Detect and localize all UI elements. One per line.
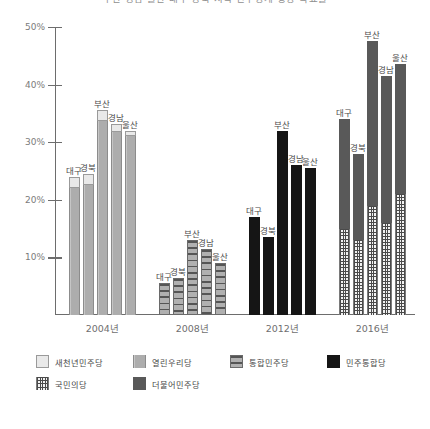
bar-segment [159, 283, 170, 315]
x-axis-label: 2012년 [266, 321, 299, 335]
x-axis-label: 2016년 [356, 321, 389, 335]
bar-segment [83, 174, 94, 185]
chart-legend: 새천년민주당열린우리당통합민주당민주통합당국민의당더불어민주당 [36, 355, 426, 399]
legend-item[interactable]: 국민의당 [36, 377, 133, 390]
legend-swatch-icon [327, 355, 340, 368]
chart-container: 부산 경남 울산 대구 경북 지역 민주당계 정당 득표율 10%20%30%4… [0, 0, 430, 429]
bar-segment [111, 124, 122, 132]
bar-value-label: 부산 [364, 28, 380, 40]
y-tick-label: 20% [25, 195, 45, 205]
bar[interactable]: 대구 [159, 283, 170, 315]
bar[interactable]: 울산 [395, 64, 406, 315]
bar-value-label: 경북 [260, 224, 276, 236]
x-axis-label: 2004년 [86, 321, 119, 335]
bar-segment [249, 217, 260, 315]
bar[interactable]: 울산 [215, 263, 226, 315]
bar[interactable]: 경북 [263, 237, 274, 315]
legend-swatch-icon [133, 355, 146, 368]
bar-segment [125, 136, 136, 315]
bar[interactable]: 경남 [111, 124, 122, 315]
y-tick-label: 30% [25, 137, 45, 147]
plot-area: 10%20%30%40%50% 대구경북부산경남울산대구경북부산경남울산대구경북… [55, 27, 415, 315]
y-tick-mark [48, 257, 55, 258]
legend-row: 국민의당더불어민주당 [36, 377, 426, 390]
bar[interactable]: 대구 [249, 217, 260, 315]
bar-segment [69, 177, 80, 189]
bar-group: 대구경북부산경남울산 [249, 27, 319, 315]
legend-label: 더불어민주당 [152, 378, 200, 390]
bar-segment [201, 249, 212, 315]
legend-swatch-icon [133, 377, 146, 390]
bar-value-label: 대구 [246, 204, 262, 216]
bar-value-label: 경남 [198, 236, 214, 248]
bar-segment [353, 240, 364, 315]
bar-segment [277, 131, 288, 315]
y-axis-line [55, 27, 56, 315]
bar[interactable]: 경남 [381, 76, 392, 315]
legend-item[interactable]: 열린우리당 [133, 355, 230, 368]
bar-segment [69, 188, 80, 315]
legend-item[interactable]: 민주통합당 [327, 355, 424, 368]
bar-segment [367, 41, 378, 205]
bar-segment [97, 121, 108, 315]
legend-item[interactable]: 더불어민주당 [133, 377, 230, 390]
bar-group: 대구경북부산경남울산 [339, 27, 409, 315]
bar-value-label: 경북 [80, 161, 96, 173]
bar-segment [395, 64, 406, 194]
bar[interactable]: 경남 [291, 165, 302, 315]
y-tick-label: 40% [25, 80, 45, 90]
bar-segment [291, 165, 302, 315]
bar-value-label: 울산 [392, 51, 408, 63]
bar[interactable]: 경북 [173, 278, 184, 315]
bar-segment [395, 194, 406, 315]
legend-row: 새천년민주당열린우리당통합민주당민주통합당 [36, 355, 426, 368]
legend-item[interactable]: 통합민주당 [230, 355, 327, 368]
bar[interactable]: 부산 [367, 41, 378, 315]
bar-segment [353, 154, 364, 240]
bar[interactable]: 부산 [277, 131, 288, 315]
legend-label: 새천년민주당 [55, 356, 103, 368]
y-tick-inner [55, 257, 62, 258]
bar-value-label: 경북 [350, 141, 366, 153]
bar-segment [367, 206, 378, 315]
bar[interactable]: 경남 [201, 249, 212, 315]
bar-segment [339, 229, 350, 315]
x-axis-label: 2008년 [176, 321, 209, 335]
bar-segment [215, 263, 226, 315]
legend-item[interactable]: 새천년민주당 [36, 355, 133, 368]
y-tick-mark [48, 27, 55, 28]
bar-value-label: 대구 [336, 106, 352, 118]
legend-label: 국민의당 [55, 378, 87, 390]
y-tick-inner [55, 200, 62, 201]
bar-segment [339, 119, 350, 228]
legend-swatch-icon [36, 377, 49, 390]
y-tick-label: 10% [25, 252, 45, 262]
bar-value-label: 부산 [94, 97, 110, 109]
bar[interactable]: 경북 [83, 174, 94, 315]
bar[interactable]: 부산 [97, 110, 108, 315]
bar[interactable]: 부산 [187, 240, 198, 315]
y-tick-inner [55, 142, 62, 143]
y-tick-mark [48, 142, 55, 143]
legend-swatch-icon [36, 355, 49, 368]
bar-value-label: 울산 [212, 250, 228, 262]
bar-segment [97, 110, 108, 121]
bar-segment [111, 132, 122, 315]
bar-segment [381, 223, 392, 315]
bar-segment [381, 76, 392, 223]
bar[interactable]: 울산 [305, 168, 316, 315]
chart-title: 부산 경남 울산 대구 경북 지역 민주당계 정당 득표율 [0, 0, 430, 5]
bar[interactable]: 경북 [353, 154, 364, 315]
bar-value-label: 부산 [274, 118, 290, 130]
bar[interactable]: 대구 [339, 119, 350, 315]
y-tick-label: 50% [25, 22, 45, 32]
bar-segment [305, 168, 316, 315]
bar-value-label: 경남 [378, 63, 394, 75]
bar-group: 대구경북부산경남울산 [159, 27, 229, 315]
bar-value-label: 울산 [302, 155, 318, 167]
y-tick-mark [48, 85, 55, 86]
bar[interactable]: 대구 [69, 177, 80, 315]
bar[interactable]: 울산 [125, 131, 136, 315]
y-tick-inner [55, 85, 62, 86]
bar-value-label: 울산 [122, 118, 138, 130]
